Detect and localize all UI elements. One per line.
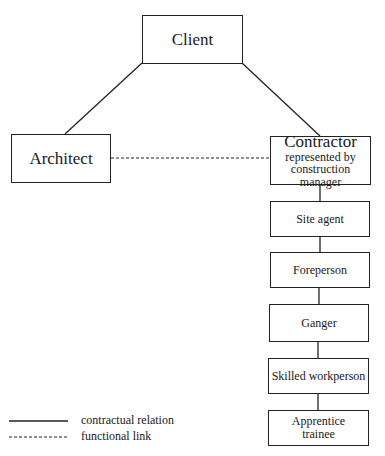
node-apprentice-label-2: trainee — [302, 428, 335, 441]
node-site-agent: Site agent — [270, 201, 370, 237]
node-apprentice: Apprentice trainee — [268, 410, 369, 446]
node-ganger: Ganger — [269, 304, 369, 342]
node-contractor: Contractor represented by construction m… — [270, 136, 371, 185]
node-site-agent-label: Site agent — [296, 213, 344, 226]
node-foreperson-label: Foreperson — [293, 264, 347, 277]
node-foreperson: Foreperson — [270, 252, 370, 288]
node-architect: Architect — [11, 134, 111, 183]
node-contractor-label: Contractor — [284, 133, 357, 151]
client-architect-line — [65, 63, 142, 134]
legend-solid-label: contractual relation — [81, 413, 174, 428]
node-skilled-label: Skilled workperson — [272, 370, 366, 383]
client-contractor-line — [242, 63, 320, 136]
node-client-label: Client — [172, 31, 214, 49]
legend-dashed-label: functional link — [81, 429, 151, 444]
node-ganger-label: Ganger — [301, 317, 336, 330]
node-client: Client — [142, 15, 243, 64]
node-contractor-sub2: construction manager — [271, 163, 370, 188]
node-architect-label: Architect — [29, 150, 92, 168]
node-skilled-workperson: Skilled workperson — [268, 358, 369, 394]
